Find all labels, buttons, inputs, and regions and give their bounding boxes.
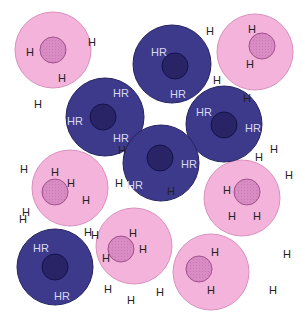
free-hydrogen-label: H [269, 284, 277, 296]
free-hydrogen-label: H [34, 98, 42, 110]
receptor-label: HR [151, 46, 167, 58]
dark-cell: HRHR [133, 25, 211, 103]
free-hydrogen-label: H [84, 226, 92, 238]
dark-cell-nucleus [90, 104, 116, 130]
hydrogen-label: H [88, 36, 96, 48]
dark-cell-nucleus [147, 145, 173, 171]
pink-cell: HH [96, 208, 172, 284]
nucleus-texture [249, 33, 275, 59]
free-hydrogen-label: H [255, 151, 263, 163]
hydrogen-label: H [129, 227, 137, 239]
hydrogen-label: H [67, 177, 75, 189]
dark-cell-nucleus [211, 112, 237, 138]
free-hydrogen-label: H [283, 248, 291, 260]
hydrogen-label: H [207, 284, 215, 296]
hydrogen-label: H [223, 184, 231, 196]
cell-diagram: HHHHHHHHHHHHHHHHRHRHRHRHRHRHRHRHRHHRHR H… [0, 0, 305, 323]
hydrogen-label: H [246, 58, 254, 70]
nucleus-texture [40, 37, 66, 63]
pink-cell: HH [217, 14, 293, 90]
receptor-label: HR [245, 122, 261, 134]
hydrogen-label: H [139, 243, 147, 255]
dark-cell: HRHRH [123, 125, 199, 201]
receptor-label: HR [181, 158, 197, 170]
pink-cell: HHH [15, 12, 96, 88]
free-hydrogen-label: H [22, 206, 30, 218]
hydrogen-label: H [167, 185, 175, 197]
hydrogen-label: H [58, 72, 66, 84]
hydrogen-label: H [211, 246, 219, 258]
free-hydrogen-label: H [213, 74, 221, 86]
receptor-label: HR [127, 179, 143, 191]
free-hydrogen-label: H [20, 163, 28, 175]
receptor-label: HR [196, 106, 212, 118]
free-hydrogen-label: H [206, 25, 214, 37]
hydrogen-label: H [253, 210, 261, 222]
hydrogen-label: H [51, 166, 59, 178]
nucleus-texture [42, 179, 68, 205]
free-hydrogen-label: H [156, 286, 164, 298]
receptor-label: HR [33, 242, 49, 254]
hydrogen-label: H [228, 210, 236, 222]
receptor-label: HR [170, 88, 186, 100]
receptor-label: HR [67, 115, 83, 127]
pink-cell: HHH [32, 150, 108, 226]
receptor-label: HR [54, 290, 70, 302]
free-hydrogen-label: H [104, 283, 112, 295]
hydrogen-label: H [248, 23, 256, 35]
pink-cell: HHH [204, 160, 280, 236]
free-hydrogen-label: H [127, 294, 135, 306]
hydrogen-label: H [26, 46, 34, 58]
free-hydrogen-label: H [118, 144, 126, 156]
pink-cell: HH [173, 234, 249, 310]
free-hydrogen-label: H [285, 169, 293, 181]
dark-cell: HRHR [17, 229, 93, 305]
free-hydrogen-label: H [115, 177, 123, 189]
free-hydrogen-label: H [270, 143, 278, 155]
nucleus-texture [108, 236, 134, 262]
free-hydrogen-label: H [102, 252, 110, 264]
hydrogen-label: H [82, 194, 90, 206]
cells-layer: HHHHHHHHHHHHHHHHRHRHRHRHRHRHRHRHRHHRHR [15, 12, 293, 310]
receptor-label: HR [113, 87, 129, 99]
free-hydrogen-label: H [91, 229, 99, 241]
nucleus-texture [186, 256, 212, 282]
receptor-label: HR [113, 132, 129, 144]
free-hydrogen-label: H [243, 92, 251, 104]
dark-cell-nucleus [42, 254, 68, 280]
nucleus-texture [234, 179, 260, 205]
